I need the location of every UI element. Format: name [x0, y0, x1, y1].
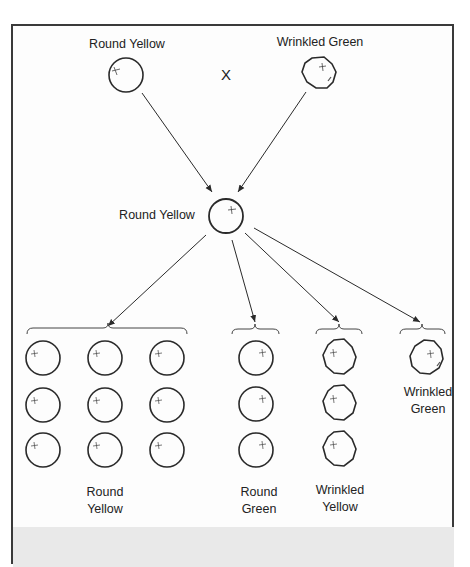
- round-green-offspring-column: [239, 341, 273, 467]
- wrinkled-yellow-offspring-column: [323, 339, 356, 466]
- wrinkled-green-offspring-icon: [410, 340, 443, 374]
- parent-1-label: Round Yellow: [82, 36, 172, 53]
- group-wrinkled-green-label: WrinkledGreen: [398, 384, 458, 418]
- f1-label: Round Yellow: [112, 207, 202, 224]
- f1-round-yellow-pea-icon: [209, 199, 243, 233]
- parent-wrinkled-green-pea-icon: [302, 57, 336, 88]
- arrow-f1-to-wrinkled-green: [254, 228, 420, 322]
- parent-2-label: Wrinkled Green: [270, 34, 370, 51]
- brace-group-icons: [27, 323, 445, 334]
- arrow-f1-to-round-green: [232, 240, 255, 322]
- group-wrinkled-yellow-label: WrinkledYellow: [310, 482, 370, 516]
- group-round-green-label: RoundGreen: [232, 484, 286, 518]
- arrow-parent1-to-f1: [142, 93, 212, 192]
- cross-symbol: X: [221, 66, 231, 83]
- round-yellow-offspring-grid: [26, 341, 184, 467]
- arrow-f1-to-wrinkled-yellow: [245, 233, 339, 322]
- group-round-yellow-label: RoundYellow: [78, 484, 132, 518]
- arrow-f1-to-round-yellow: [108, 235, 206, 326]
- arrow-parent2-to-f1: [238, 92, 306, 192]
- parent-round-yellow-pea-icon: [109, 58, 143, 92]
